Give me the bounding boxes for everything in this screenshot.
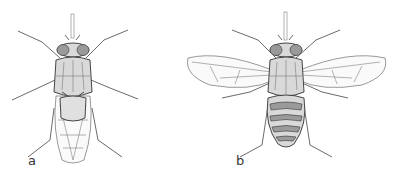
fly-illustration-a: a — [0, 0, 180, 175]
panel-label-b: b — [236, 153, 244, 168]
fly-drawing-wings-folded — [0, 0, 180, 175]
panel-label-a: a — [28, 153, 36, 168]
fly-illustration-b: b — [180, 0, 397, 175]
fly-drawing-wings-spread — [180, 0, 397, 175]
